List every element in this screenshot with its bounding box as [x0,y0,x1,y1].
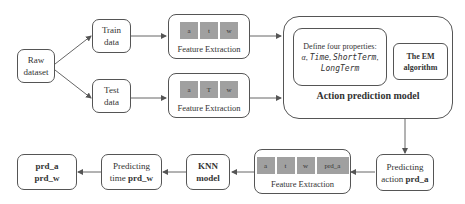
feature-cell: T [200,81,218,98]
feature-extraction-test: a T w Feature Extraction [168,73,250,118]
em-line1: The EM [406,51,434,62]
define-properties-label: Define four properties: [303,41,376,52]
feature-cell: w [220,81,238,98]
predicting-time-value: prd_w [128,173,153,183]
property-alpha: α [302,53,306,62]
feature-cell: t [277,157,295,174]
output-node: prd_a prd_w [17,154,77,190]
predicting-action-prefix: action [381,174,405,184]
feature-extraction-caption: Feature Extraction [169,44,249,54]
output-line1: prd_a [35,160,58,172]
test-data-line1: Test [104,84,119,96]
feature-extraction-caption: Feature Extraction [169,103,249,113]
test-data-line2: data [104,96,119,108]
feature-cell: t [200,22,218,39]
feature-extraction-train: a t w Feature Extraction [168,14,250,59]
predicting-action-node: Predicting action prd_a [376,154,434,191]
feature-cell: w [297,157,315,174]
feature-extraction-bottom: a t w prd_a Feature Extraction [254,149,351,194]
predicting-action-value: prd_a [406,174,429,184]
predicting-time-node: Predicting time prd_w [101,154,162,190]
property-time: Time [310,53,329,62]
feature-cell: a [180,81,198,98]
knn-line1: KNN [198,160,218,172]
action-prediction-model: Define four properties: α, Time, ShortTe… [283,16,453,119]
raw-dataset-line2: dataset [24,66,49,78]
output-line2: prd_w [34,172,59,184]
knn-line2: model [196,172,220,184]
em-line2: algorithm [404,62,438,73]
feature-cell: a [257,157,275,174]
feature-extraction-caption: Feature Extraction [255,179,350,189]
test-data-node: Test data [92,79,131,113]
train-data-node: Train data [92,19,131,53]
predicting-time-line1: Predicting [113,160,150,172]
raw-dataset-node: Raw dataset [17,49,55,83]
property-longterm: LongTerm [321,63,360,74]
define-properties-box: Define four properties: α, Time, ShortTe… [293,28,387,86]
action-prediction-model-title: Action prediction model [284,90,452,101]
train-data-line2: data [104,36,119,48]
feature-cell: a [180,22,198,39]
feature-cell: w [220,22,238,39]
predicting-action-line1: Predicting [387,161,424,173]
raw-dataset-line1: Raw [28,54,45,66]
feature-cell: prd_a [317,157,349,174]
train-data-line1: Train [102,24,121,36]
property-shortterm: ShortTerm [333,53,376,62]
knn-model-node: KNN model [186,154,230,190]
em-algorithm-box: The EM algorithm [393,43,448,80]
predicting-time-prefix: time [110,173,128,183]
